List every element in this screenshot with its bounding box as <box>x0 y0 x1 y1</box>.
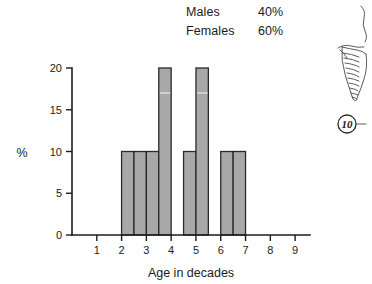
x-axis-tick-label: 8 <box>267 244 273 256</box>
x-axis-tick-label: 4 <box>168 244 174 256</box>
ribcage-spine-sketch <box>338 6 367 101</box>
y-axis-tick-label: 20 <box>50 62 62 74</box>
y-axis-tick-label: 15 <box>50 104 62 116</box>
histogram-bar <box>233 152 245 236</box>
x-axis-title: Age in decades <box>148 266 234 280</box>
figure-fragment: 10 <box>330 0 372 150</box>
y-axis-tick-label: 10 <box>50 146 62 158</box>
y-axis-title: % <box>16 146 27 160</box>
x-axis-tick-label: 6 <box>218 244 224 256</box>
histogram-bar <box>134 152 146 236</box>
x-axis-tick-label: 7 <box>242 244 248 256</box>
figure-fragment-svg: 10 <box>330 0 372 150</box>
histogram-chart: 05101520123456789 Age in decades % <box>0 0 372 284</box>
figure-number-text: 10 <box>342 118 354 130</box>
x-axis-tick-label: 1 <box>94 244 100 256</box>
x-axis-tick-label: 9 <box>292 244 298 256</box>
figure-number-badge: 10 <box>338 115 366 133</box>
histogram-bar <box>146 152 158 236</box>
chart-svg: 05101520123456789 Age in decades % <box>0 0 372 284</box>
x-axis-tick-label: 5 <box>193 244 199 256</box>
histogram-bar <box>184 152 196 236</box>
y-axis-tick-label: 5 <box>56 187 62 199</box>
bars-layer <box>122 68 246 235</box>
x-axis-tick-label: 3 <box>143 244 149 256</box>
x-axis-tick-label: 2 <box>119 244 125 256</box>
histogram-bar <box>221 152 233 236</box>
histogram-bar <box>122 152 134 236</box>
axes-layer: 05101520123456789 <box>50 62 310 256</box>
y-axis-tick-label: 0 <box>56 229 62 241</box>
